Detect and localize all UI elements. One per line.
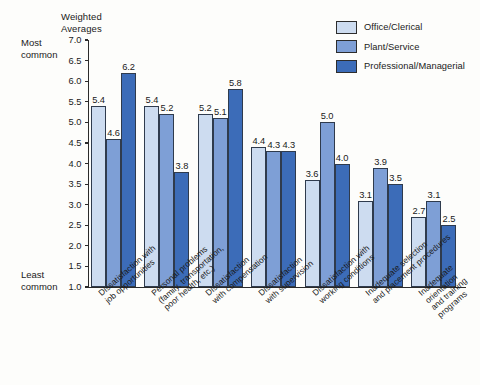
scale-low-label: Least common [21,269,57,292]
y-axis-title: Weighted Averages [61,11,102,34]
y-axis-tick-label: 7.0 [69,35,82,45]
y-axis-tick-label: 6.0 [69,76,82,86]
scale-high-label: Most common [21,37,57,60]
bar-item: 5.0 [320,122,335,287]
bar-item: 6.2 [121,73,136,287]
y-axis-tick-label: 4.0 [69,158,82,168]
bar-value-label: 4.4 [252,136,265,146]
bar [320,122,335,287]
bar-value-label: 3.5 [389,173,402,183]
bar-value-label: 5.4 [146,95,159,105]
bar-value-label: 5.2 [161,103,174,113]
y-axis-tick-label: 4.5 [69,137,82,147]
bar-chart: Weighted Averages Most common Least comm… [0,0,480,385]
y-axis-tick-label: 3.5 [69,179,82,189]
y-axis-tick-mark [85,163,89,164]
y-axis-tick-mark [85,81,89,82]
bar-item: 4.3 [266,151,281,287]
y-axis-tick-label: 3.0 [69,199,82,209]
y-axis-tick-mark [85,245,89,246]
bar-value-label: 3.8 [176,161,189,171]
y-axis-tick-mark [85,142,89,143]
bar [121,73,136,287]
y-axis-tick-mark [85,101,89,102]
y-axis-tick-mark [85,60,89,61]
y-axis-tick-label: 6.5 [69,55,82,65]
bar-value-label: 3.1 [359,190,372,200]
bar-group: 5.44.66.2 [91,73,136,287]
y-axis-tick-mark [85,225,89,226]
bar [159,114,174,287]
y-axis-tick-mark [85,184,89,185]
bar-value-label: 3.9 [374,157,387,167]
bar-value-label: 4.6 [107,128,120,138]
bar [266,151,281,287]
bar-value-label: 5.4 [92,95,105,105]
bar-value-label: 5.1 [214,107,227,117]
bar-item: 4.6 [106,139,121,287]
bar-value-label: 5.8 [229,78,242,88]
bar-item: 5.2 [159,114,174,287]
y-axis-tick-label: 2.0 [69,240,82,250]
bar-value-label: 3.1 [428,190,441,200]
y-axis-tick-label: 1.5 [69,261,82,271]
y-axis-tick-label: 2.5 [69,220,82,230]
bar [106,139,121,287]
bar-value-label: 4.3 [267,140,280,150]
y-axis-tick-mark [85,286,89,287]
legend-swatch [336,21,357,34]
y-axis-tick-mark [85,204,89,205]
y-axis-tick-mark [85,39,89,40]
bar-item: 5.4 [91,106,106,287]
bar-value-label: 4.0 [336,153,349,163]
y-axis-tick-mark [85,266,89,267]
bar-value-label: 3.6 [306,169,319,179]
bar-value-label: 4.3 [282,140,295,150]
bar-value-label: 2.5 [443,214,456,224]
y-axis-tick-label: 5.5 [69,96,82,106]
bar-value-label: 5.0 [321,111,334,121]
bar-value-label: 5.2 [199,103,212,113]
y-axis-tick-label: 1.0 [69,282,82,292]
y-axis-tick-mark [85,122,89,123]
legend-item: Office/Clerical [336,20,465,34]
bar-value-label: 2.7 [413,206,426,216]
y-axis-tick-label: 5.0 [69,117,82,127]
legend-label: Office/Clerical [364,22,422,32]
bar-value-label: 6.2 [122,62,135,72]
bar [91,106,106,287]
